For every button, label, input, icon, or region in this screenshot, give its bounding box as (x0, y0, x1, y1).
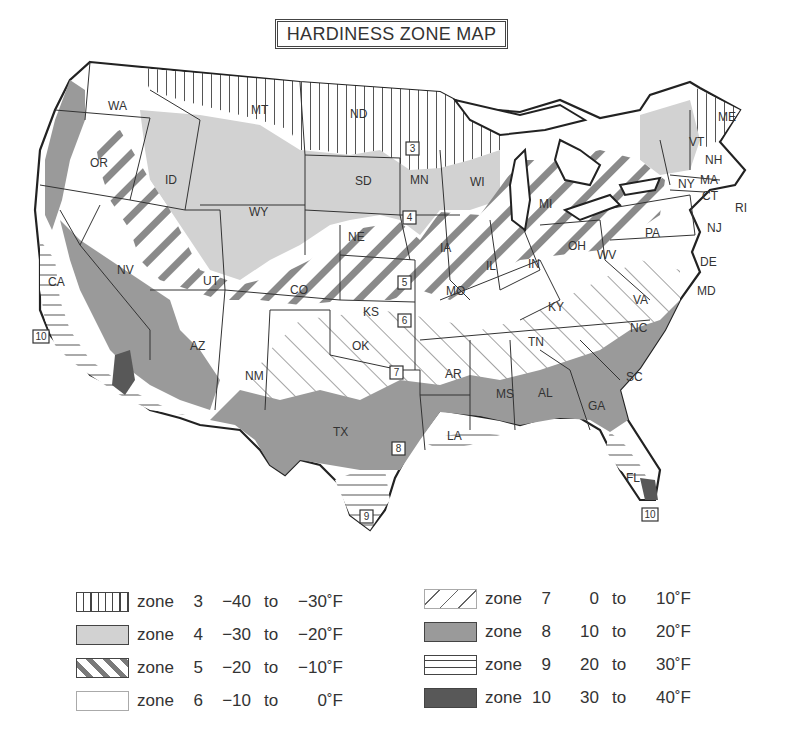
legend-end: 0˚F (291, 691, 343, 711)
legend-row-zone5: zone 5 −20 to −10˚F (76, 651, 343, 684)
state-label-ut: UT (203, 274, 220, 288)
legend-row-zone3: zone 3 −40 to −30˚F (76, 585, 343, 618)
state-label-mn: MN (410, 173, 429, 187)
legend-row-zone7: zone 7 0 to 10˚F (424, 582, 691, 615)
state-label-vt: VT (689, 135, 705, 149)
svg-text:8: 8 (396, 443, 402, 454)
legend-to: to (599, 622, 639, 642)
state-label-nc: NC (630, 321, 648, 335)
state-label-id: ID (165, 173, 177, 187)
state-label-sc: SC (626, 370, 643, 384)
zone-marker-3: 3 (406, 142, 419, 155)
legend-zone-number: 9 (529, 655, 551, 675)
legend-word: zone (485, 655, 529, 675)
zone5-swatch (76, 658, 129, 678)
state-label-nv: NV (117, 263, 134, 277)
legend-from: 0 (557, 589, 599, 609)
legend-word: zone (137, 625, 181, 645)
legend-to: to (599, 688, 639, 708)
zone-marker-7: 7 (390, 366, 403, 379)
legend-left: zone 3 −40 to −30˚F zone 4 −30 to −20˚F … (76, 585, 343, 717)
legend-row-zone9: zone 9 20 to 30˚F (424, 648, 691, 681)
legend-word: zone (137, 592, 181, 612)
state-label-ri: RI (735, 201, 747, 215)
state-label-co: CO (290, 283, 308, 297)
zone8-swatch (424, 622, 477, 642)
state-label-de: DE (700, 255, 717, 269)
legend-row-zone6: zone 6 −10 to 0˚F (76, 684, 343, 717)
legend-to: to (251, 625, 291, 645)
state-label-sd: SD (355, 174, 372, 188)
state-label-wi: WI (470, 175, 485, 189)
legend-row-zone4: zone 4 −30 to −20˚F (76, 618, 343, 651)
state-label-fl: FL (626, 471, 640, 485)
state-label-ct: CT (702, 189, 719, 203)
state-label-or: OR (90, 156, 108, 170)
us-hardiness-map: WA OR CA ID NV MT WY UT AZ CO NM ND SD N… (0, 0, 800, 570)
state-label-va: VA (633, 293, 648, 307)
legend-end: −20˚F (291, 625, 343, 645)
legend-from: −10 (209, 691, 251, 711)
state-label-oh: OH (568, 239, 586, 253)
state-label-tn: TN (528, 335, 544, 349)
state-label-nd: ND (350, 107, 368, 121)
state-label-me: ME (718, 110, 736, 124)
state-label-il: IL (486, 259, 496, 273)
state-label-tx: TX (333, 425, 348, 439)
state-label-ar: AR (445, 367, 462, 381)
legend-word: zone (485, 622, 529, 642)
legend-to: to (251, 691, 291, 711)
legend-row-zone10: zone 10 30 to 40˚F (424, 681, 691, 714)
svg-text:5: 5 (402, 277, 408, 288)
legend-zone-number: 3 (181, 592, 203, 612)
zone7-swatch (424, 589, 477, 609)
legend-to: to (251, 592, 291, 612)
legend-zone-number: 8 (529, 622, 551, 642)
legend-row-zone8: zone 8 10 to 20˚F (424, 615, 691, 648)
legend-end: 40˚F (639, 688, 691, 708)
svg-text:10: 10 (644, 509, 656, 520)
legend-zone-number: 4 (181, 625, 203, 645)
zone-marker-4: 4 (403, 211, 416, 224)
legend-end: −30˚F (291, 592, 343, 612)
state-label-ks: KS (363, 305, 379, 319)
legend-zone-number: 5 (181, 658, 203, 678)
legend-from: −40 (209, 592, 251, 612)
state-label-ma: MA (700, 173, 718, 187)
state-label-ms: MS (496, 387, 514, 401)
state-label-wa: WA (108, 99, 127, 113)
state-label-ia: IA (440, 241, 451, 255)
legend-from: 10 (557, 622, 599, 642)
state-label-ny: NY (678, 177, 695, 191)
legend-to: to (599, 655, 639, 675)
zone9-swatch (424, 655, 477, 675)
state-label-in: IN (528, 257, 540, 271)
state-label-nm: NM (245, 369, 264, 383)
state-label-ok: OK (352, 339, 369, 353)
legend-end: 30˚F (639, 655, 691, 675)
zone10-swatch (424, 688, 477, 708)
state-label-nh: NH (705, 153, 722, 167)
svg-text:9: 9 (364, 511, 370, 522)
zone-marker-5: 5 (398, 276, 411, 289)
zone-marker-10-fl: 10 (642, 508, 658, 521)
zone-marker-6: 6 (398, 314, 411, 327)
legend-right: zone 7 0 to 10˚F zone 8 10 to 20˚F zone … (424, 582, 691, 714)
zone-marker-8: 8 (392, 442, 405, 455)
state-label-mt: MT (251, 103, 269, 117)
state-label-ga: GA (588, 399, 605, 413)
legend-word: zone (485, 688, 529, 708)
state-label-md: MD (697, 284, 716, 298)
legend-zone-number: 6 (181, 691, 203, 711)
zone4-swatch (76, 625, 129, 645)
state-label-pa: PA (645, 226, 660, 240)
legend-to: to (599, 589, 639, 609)
legend-end: 10˚F (639, 589, 691, 609)
svg-text:10: 10 (35, 331, 47, 342)
zone6-swatch (76, 691, 129, 711)
zone3-swatch (76, 592, 129, 612)
state-label-wy: WY (249, 205, 268, 219)
legend-from: 30 (557, 688, 599, 708)
legend-end: 20˚F (639, 622, 691, 642)
legend-word: zone (137, 691, 181, 711)
